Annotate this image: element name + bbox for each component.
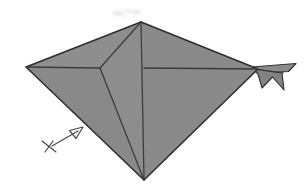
origami-diagram-svg — [0, 0, 306, 190]
scan-smudge-right — [131, 10, 141, 14]
scan-smudge-left — [112, 11, 124, 15]
diagram-canvas: Black and white origami diagram showing … — [0, 0, 306, 190]
scan-smudge-low — [120, 15, 128, 18]
scan-smudge-mid — [125, 9, 131, 13]
